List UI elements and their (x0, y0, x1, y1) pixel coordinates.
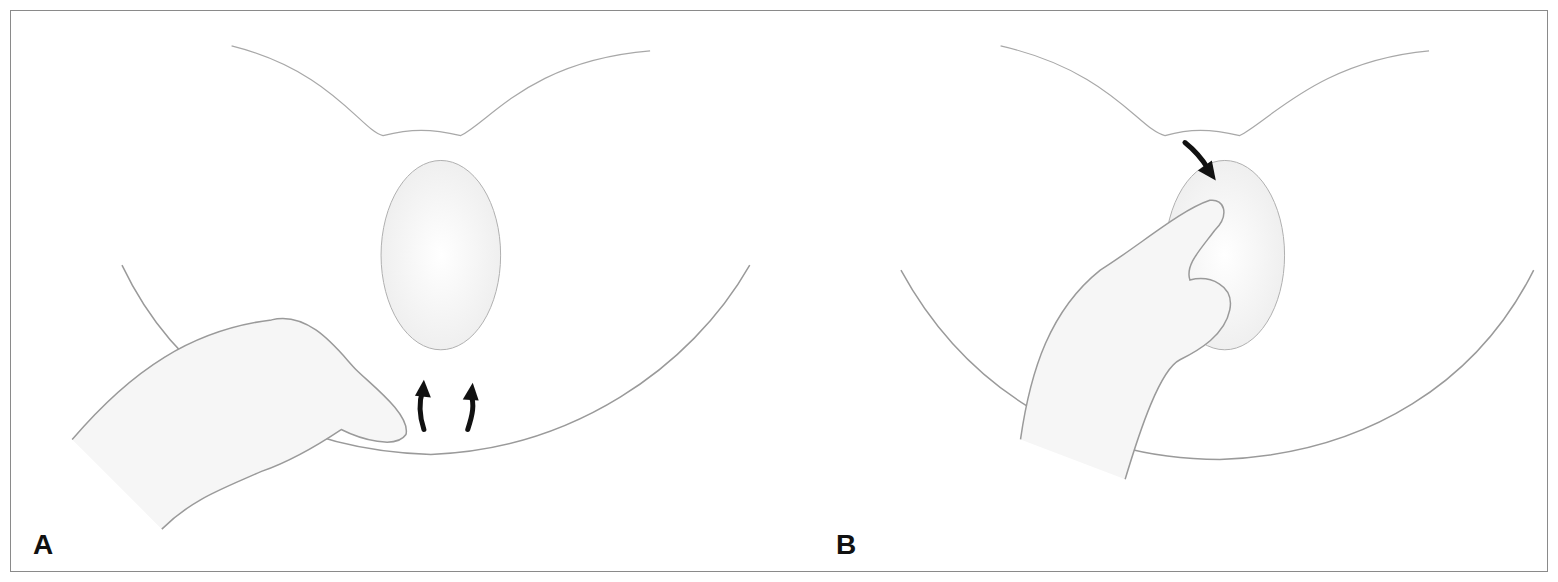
panel-a: A (11, 11, 780, 571)
figure-frame: A B (10, 10, 1548, 572)
panel-label: B (836, 529, 856, 561)
panel-a-illustration (11, 11, 780, 571)
panel-b-illustration (780, 11, 1549, 571)
panel-b: B (780, 11, 1549, 571)
arrow-up-icon-left (415, 380, 431, 430)
panel-label: A (33, 529, 53, 561)
arrow-up-icon-right (463, 383, 479, 430)
